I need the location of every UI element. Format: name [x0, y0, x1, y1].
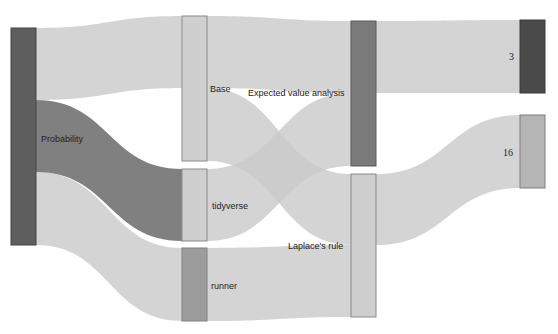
node-base: [182, 16, 207, 161]
sankey-diagram: Probability Base Expected value analysis…: [0, 0, 558, 334]
node-label-tidyverse: tidyverse: [212, 201, 248, 211]
link-base-to-eva: [207, 16, 351, 93]
sankey-links: [36, 16, 520, 321]
node-probability: [11, 28, 36, 245]
node-eva: [351, 21, 376, 166]
node-label-expected-value-analysis: Expected value analysis: [248, 88, 345, 98]
node-runner: [182, 248, 207, 321]
node-label-runner: runner: [211, 281, 237, 291]
node-label-3: 3: [509, 51, 514, 62]
node-label-base: Base: [210, 84, 231, 94]
node-label-16: 16: [503, 147, 513, 158]
node-label-probability: Probability: [41, 134, 84, 144]
node-label-laplaces-rule: Laplace's rule: [288, 241, 343, 251]
link-eva-to-n3: [376, 20, 520, 93]
node-n3: [520, 20, 545, 93]
node-tidyverse: [182, 169, 207, 241]
node-n16: [520, 115, 545, 188]
link-probability-to-base: [36, 16, 182, 100]
link-laplace-to-n16: [376, 115, 520, 245]
node-laplace: [351, 174, 376, 317]
